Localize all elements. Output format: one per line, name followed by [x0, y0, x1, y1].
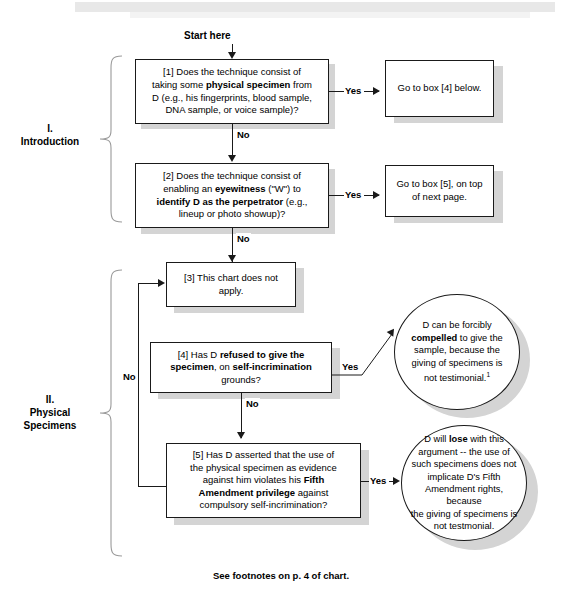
edge-label-spine-no: No — [122, 371, 137, 382]
box4-line2: specimen, on self-incrimination — [170, 361, 312, 374]
section-name-2: Physical — [4, 406, 96, 419]
arrow-box4-no — [237, 432, 245, 439]
box2-line2: enabling an eyewitness ("W") to — [157, 183, 308, 196]
box2yes-line1: Go to box [5], on top — [396, 178, 482, 191]
box1-line3: D (e.g., his fingerprints, blood sample, — [152, 92, 312, 105]
box5-line2: the physical specimen as evidence — [190, 462, 337, 475]
ellipse5-line1: D will lose with this — [410, 433, 518, 445]
flowchart-page: I. Introduction II. Physical Specimens S… — [0, 0, 562, 613]
box5-emph-amendment-privilege: Amendment privilege — [199, 487, 296, 498]
box5-line1: [5] Has D asserted that the use of — [190, 449, 337, 462]
box3-line2: apply. — [184, 285, 278, 298]
arrow-box5-yes — [393, 477, 400, 485]
arrow-start-to-box1 — [228, 52, 236, 59]
box1-emph-physical-specimen: physical specimen — [206, 79, 290, 90]
box1-line4: DNA sample, or voice sample)? — [152, 104, 312, 117]
box1-line2: taking some physical specimen from — [152, 79, 312, 92]
box5-line5: compulsory self-incrimination? — [190, 499, 337, 512]
box5-line3: against him violates his Fifth — [190, 474, 337, 487]
ellipse4-line5: not testimonial.1 — [411, 369, 502, 385]
box2yes-line2: of next page. — [396, 191, 482, 204]
brace-physical-specimens — [98, 268, 124, 558]
section-label-introduction: I. Introduction — [8, 122, 92, 148]
box3-line1: [3] This chart does not — [184, 272, 278, 285]
box-1-question[interactable]: [1] Does the technique consist of taking… — [135, 59, 329, 124]
edge-label-box1-yes: Yes — [344, 85, 362, 96]
box4-emph-self-incrimination: self-incrimination — [233, 361, 312, 372]
edge-label-box1-no: No — [236, 129, 251, 140]
edge-label-box4-yes: Yes — [341, 361, 359, 372]
box1-line1: [1] Does the technique consist of — [152, 66, 312, 79]
edge-label-box4-no: No — [245, 398, 260, 409]
ellipse4-line1: D can be forcibly — [411, 319, 502, 331]
section-label-physical-specimens: II. Physical Specimens — [4, 393, 96, 432]
edge-label-box5-yes: Yes — [369, 475, 387, 486]
ellipse5-line7: not testmonial. — [410, 520, 518, 532]
box2-emph-identify: identify D as the perpetrator — [157, 196, 284, 207]
box-4-question[interactable]: [4] Has D refused to give the specimen, … — [150, 342, 332, 393]
section-roman-1: I. — [8, 122, 92, 135]
scan-artifact-bar — [75, 2, 555, 12]
box-2-question[interactable]: [2] Does the technique consist of enabli… — [135, 163, 329, 228]
arrow-box2-yes — [373, 191, 380, 199]
ellipse5-line6: the giving of specimens is — [410, 508, 518, 520]
start-here-label: Start here — [184, 30, 231, 41]
edge-label-box2-no: No — [236, 233, 251, 244]
box2-line1: [2] Does the technique consist of — [157, 170, 308, 183]
arrow-spine-into-box3 — [158, 279, 165, 287]
box2-line4: lineup or photo showup)? — [157, 208, 308, 221]
ellipse-compelled-outcome[interactable]: D can be forcibly compelled to give the … — [394, 294, 520, 410]
box4-emph-refused: refused to give the — [220, 349, 304, 360]
section-roman-2: II. — [4, 393, 96, 406]
box5-emph-fifth: Fifth — [304, 474, 325, 485]
box2-emph-eyewitness: eyewitness — [215, 183, 266, 194]
brace-introduction — [98, 54, 124, 224]
box4-emph-specimen: specimen — [170, 361, 214, 372]
box5-line4: Amendment privilege against — [190, 487, 337, 500]
ellipse4-line4: giving of specimens is — [411, 357, 502, 369]
connector-box4-no — [241, 393, 242, 417]
connector-box1-no — [232, 124, 233, 150]
footnote-marker-1: 1 — [486, 371, 490, 378]
box2-line3: identify D as the perpetrator (e.g., — [157, 196, 308, 209]
connector-spine-vertical — [138, 283, 139, 486]
edge-label-box2-yes: Yes — [344, 189, 362, 200]
box4-line3: grounds? — [170, 374, 312, 387]
arrow-box2-no — [228, 255, 236, 262]
ellipse5-emph-lose: lose — [449, 434, 468, 444]
footer-note: See footnotes on p. 4 of chart. — [0, 570, 562, 581]
box-3-no-apply[interactable]: [3] This chart does not apply. — [166, 262, 296, 307]
ellipse5-line5: Amendment rights, because — [410, 483, 518, 508]
ellipse4-emph-compelled: compelled — [411, 333, 457, 343]
box1yes-line1: Go to box [4] below. — [398, 82, 482, 95]
connector-spine-from-box5 — [138, 486, 166, 487]
arrow-box1-yes — [373, 87, 380, 95]
ellipse-lose-outcome[interactable]: D will lose with this argument -- the us… — [401, 425, 527, 541]
connector-box2-no — [232, 228, 233, 254]
box4-line1: [4] Has D refused to give the — [170, 349, 312, 362]
ellipse4-line3: sample, because the — [411, 344, 502, 356]
arrow-box1-no — [228, 155, 236, 162]
section-name-2b: Specimens — [4, 419, 96, 432]
section-name-1: Introduction — [8, 135, 92, 148]
connector-spine-into-box3 — [138, 283, 160, 284]
scan-artifact-bar-secondary — [130, 12, 530, 18]
box-5-question[interactable]: [5] Has D asserted that the use of the p… — [166, 443, 361, 518]
ellipse5-line4: implicate D's Fifth — [410, 471, 518, 483]
box-goto-4[interactable]: Go to box [4] below. — [385, 60, 494, 117]
ellipse4-line2: compelled to give the — [411, 332, 502, 344]
ellipse5-line2: argument -- the use of — [410, 446, 518, 458]
box-goto-5[interactable]: Go to box [5], on top of next page. — [385, 165, 494, 217]
ellipse5-line3: such specimens does not — [410, 458, 518, 470]
